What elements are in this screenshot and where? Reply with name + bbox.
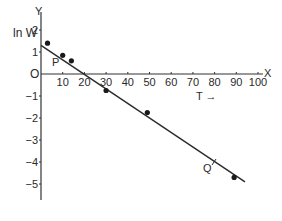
y-axis-label: ln W: [13, 26, 38, 40]
x-tick-label: 70: [187, 76, 199, 88]
y-tick-label: 1: [32, 46, 38, 58]
annotation-p: P: [52, 56, 59, 68]
y-tick-label: −1: [25, 90, 38, 102]
annotation-q: Q: [203, 162, 212, 174]
y-tick-label: −5: [25, 178, 38, 190]
x-tick-label: 80: [208, 76, 220, 88]
x-tick-label: 50: [143, 76, 155, 88]
data-point: [104, 88, 109, 93]
data-point: [232, 175, 237, 180]
y-tick-label: −2: [25, 112, 38, 124]
data-points: [45, 41, 237, 180]
y-axis-letter: Y: [35, 5, 43, 17]
chart: 102030405060708090100 21−1−2−3−4−5 Y X l…: [0, 0, 282, 221]
x-tick-label: 40: [122, 76, 134, 88]
data-point: [60, 53, 65, 58]
x-axis-label: T →: [196, 90, 217, 102]
y-tick-label: −4: [25, 156, 38, 168]
x-axis-letter: X: [264, 67, 272, 79]
y-tick-label: −3: [25, 134, 38, 146]
x-tick-label: 60: [165, 76, 177, 88]
data-point: [69, 58, 74, 63]
origin-label: O: [30, 67, 39, 81]
data-point: [145, 110, 150, 115]
x-tick-label: 90: [230, 76, 242, 88]
y-ticks: 21−1−2−3−4−5: [25, 24, 41, 190]
data-point: [45, 41, 50, 46]
x-tick-label: 10: [57, 76, 69, 88]
